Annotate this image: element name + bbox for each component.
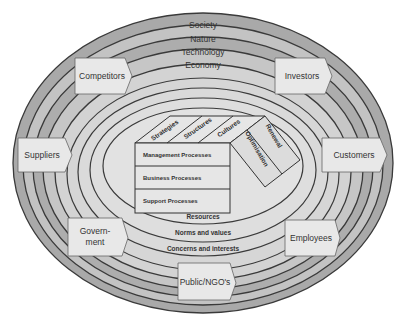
ring-economy: Economy — [185, 60, 221, 70]
stakeholder-competitors: Competitors — [79, 71, 125, 81]
stakeholder-public-ngos: Public/NGO's — [180, 277, 231, 287]
ring-norms-values: Norms and values — [175, 229, 231, 236]
ring-nature: Nature — [190, 34, 216, 44]
business-processes: Business Processes — [143, 175, 202, 181]
ring-resources: Resources — [186, 213, 220, 220]
stakeholder-investors: Investors — [285, 71, 320, 81]
stakeholder-customers: Customers — [333, 150, 374, 160]
stakeholder-employees: Employees — [290, 233, 332, 243]
st-gallen-model-diagram: Society Nature Technology Economy Strate… — [0, 0, 403, 320]
stakeholder-government-1: Govern- — [80, 226, 111, 236]
stakeholder-suppliers: Suppliers — [24, 150, 59, 160]
ring-technology: Technology — [181, 47, 225, 57]
ring-concerns-interests: Concerns and interests — [167, 245, 240, 252]
management-processes: Management Processes — [143, 152, 212, 158]
stakeholder-government-2: ment — [86, 237, 106, 247]
support-processes: Support Processes — [143, 198, 198, 204]
ring-society: Society — [189, 20, 218, 30]
